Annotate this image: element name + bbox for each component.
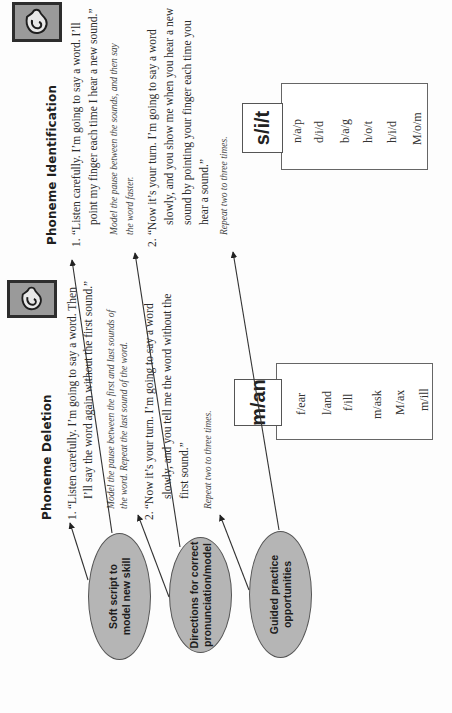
deletion-practice-word: f/ill (341, 394, 356, 411)
identification-step-1-line-1: “Listen carefully. I’m going to say a wo… (70, 22, 82, 235)
deletion-note-line-2: the word. Repeat the last sound of the w… (118, 342, 130, 509)
rotated-document-page: Phoneme Identification 1. “Listen carefu… (0, 0, 452, 713)
callout-label-line: pronunciation/model (201, 542, 214, 649)
deletion-step-2-line-1: “Now it’s your turn. I’m going to say a … (143, 303, 155, 509)
identification-step-2-line-4: hear a sound.” (198, 159, 210, 225)
ear-icon (20, 285, 44, 313)
identification-practice-word: d/i/d (312, 121, 327, 143)
deletion-repeat-note: Repeat two to three times. (202, 410, 214, 509)
identification-note-line-1: Model the pause between the sounds, and … (108, 43, 120, 235)
identification-step-2-number: 2. (146, 238, 158, 247)
deletion-step-1-line-2: I’ll say the word again without the firs… (82, 281, 94, 499)
callout-label-line: model new skill (120, 558, 133, 636)
callout-label-line: opportunities (281, 555, 294, 634)
identification-step-1-number: 1. (70, 238, 82, 247)
deletion-step-2-line-2: slowly, and you tell me the word without… (161, 294, 173, 499)
deletion-ear-icon (7, 280, 57, 318)
deletion-practice-word: f/ear (294, 393, 309, 415)
callout-label-line: Soft script to (107, 558, 120, 636)
callout-soft-script: Soft script to model new skill (88, 533, 151, 660)
deletion-step-2-line-3: first sound.” (178, 442, 190, 499)
identification-practice-word: h/i/d (385, 121, 400, 143)
callout-label-line: Guided practice (268, 555, 281, 634)
deletion-example-label: m/an (234, 379, 282, 426)
deletion-step-1-number: 1. (66, 511, 78, 520)
identification-step-2-line-2: slowly, and you show me when you hear a … (163, 8, 175, 225)
identification-repeat-note: Repeat two to three times. (218, 136, 230, 235)
identification-note-line-2: the word faster. (124, 177, 136, 236)
identification-practice-word: b/a/g (338, 119, 353, 143)
identification-practice-word: h/o/t (361, 121, 376, 143)
deletion-practice-word: l/and (320, 391, 335, 415)
identification-step-2-line-3: sound by pointing your finger each time … (181, 20, 193, 225)
identification-title: Phoneme Identification (45, 85, 59, 245)
identification-step-2-line-1: “Now it’s your turn. I’m going to say a … (146, 29, 158, 235)
ear-icon (24, 7, 50, 37)
deletion-practice-word: m/ask (370, 390, 385, 419)
deletion-practice-word: M/ax (393, 390, 408, 415)
identification-step-1-line-2: point my finger each time I hear a new s… (87, 8, 99, 225)
deletion-title: Phoneme Deletion (40, 394, 54, 520)
callout-guided-practice: Guided practice opportunities (249, 531, 312, 658)
deletion-step-1-line-1: “Listen carefully. I’m going to say a wo… (66, 287, 78, 509)
deletion-step-2-number: 2. (143, 511, 155, 520)
arrow-directions-to-identification (135, 253, 180, 547)
callout-directions: Directions for correct pronunciation/mod… (169, 537, 232, 653)
identification-ear-icon (12, 2, 62, 42)
deletion-practice-word: m/ill (417, 388, 432, 411)
identification-example-label: s/i/t (242, 103, 283, 153)
arrow-soft-script-to-deletion (70, 523, 88, 580)
identification-practice-word: n/a/p (290, 119, 305, 143)
deletion-note-line-1: Model the pause between the first and la… (105, 310, 117, 509)
callout-label-line: Directions for correct (188, 542, 201, 649)
identification-practice-word: M/o/m (410, 112, 425, 145)
